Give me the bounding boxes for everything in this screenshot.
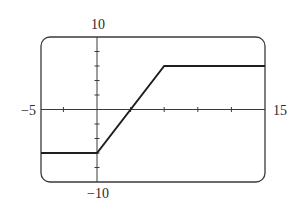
chart-canvas: 10 −10 −5 15 xyxy=(0,0,294,206)
y-max-label: 10 xyxy=(91,17,105,32)
x-min-label: −5 xyxy=(21,103,36,118)
x-max-label: 15 xyxy=(273,103,287,118)
chart: 10 −10 −5 15 xyxy=(0,0,294,206)
y-min-label: −10 xyxy=(87,186,109,201)
